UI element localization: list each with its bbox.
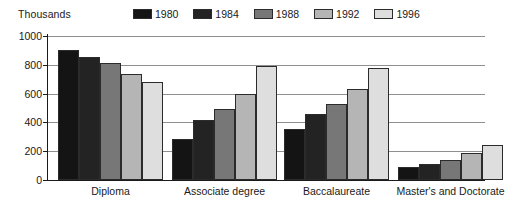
bar: [193, 120, 214, 180]
bar: [461, 153, 482, 180]
legend-label-1980: 1980: [155, 9, 178, 20]
y-tick-label-600: 600: [24, 88, 42, 99]
legend-item-1992: 1992: [314, 9, 359, 20]
bar-groups: [48, 36, 485, 180]
legend-label-1984: 1984: [215, 9, 238, 20]
y-tick-label-1000: 1000: [19, 31, 42, 42]
category-label-0: Diploma: [91, 186, 130, 197]
bar: [326, 104, 347, 180]
chart-legend: 19801984198819921996: [133, 9, 420, 20]
legend-item-1988: 1988: [254, 9, 299, 20]
legend-item-1996: 1996: [374, 9, 419, 20]
bar: [58, 50, 79, 180]
bar-group-associate-degree: [172, 36, 277, 180]
y-axis-unit-label: Thousands: [18, 8, 71, 20]
x-axis-line: [47, 180, 485, 181]
legend-swatch-1980: [133, 9, 152, 19]
bar: [142, 82, 163, 180]
category-label-3: Master's and Doctorate: [396, 186, 504, 197]
bar: [100, 63, 121, 180]
legend-swatch-1996: [374, 9, 393, 19]
bar-group-diploma: [58, 36, 163, 180]
bar: [440, 160, 461, 180]
legend-label-1996: 1996: [396, 9, 419, 20]
y-tick-label-0: 0: [36, 175, 42, 186]
y-tick-label-800: 800: [24, 60, 42, 71]
bar: [305, 114, 326, 180]
bar: [368, 68, 389, 180]
bar: [235, 94, 256, 180]
category-label-1: Associate degree: [184, 186, 265, 197]
bar: [79, 57, 100, 180]
legend-item-1984: 1984: [193, 9, 238, 20]
legend-swatch-1984: [193, 9, 212, 19]
bar: [256, 66, 277, 180]
y-tick-label-200: 200: [24, 146, 42, 157]
bar: [419, 164, 440, 180]
bar: [172, 139, 193, 180]
bar: [214, 109, 235, 180]
bar-group-master-s-and-doctorate: [398, 36, 503, 180]
bar-chart: Thousands 19801984198819921996 020040060…: [0, 0, 507, 210]
plot-area: 02004006008001000: [47, 36, 485, 181]
bar: [121, 74, 142, 180]
legend-swatch-1988: [254, 9, 273, 19]
bar: [347, 89, 368, 180]
legend-label-1992: 1992: [336, 9, 359, 20]
legend-swatch-1992: [314, 9, 333, 19]
y-axis-line: [47, 34, 48, 181]
category-label-2: Baccalaureate: [303, 186, 370, 197]
legend-label-1988: 1988: [276, 9, 299, 20]
y-tick-label-400: 400: [24, 117, 42, 128]
bar: [398, 167, 419, 180]
legend-item-1980: 1980: [133, 9, 178, 20]
bar-group-baccalaureate: [284, 36, 389, 180]
bar: [284, 129, 305, 180]
bar: [482, 145, 503, 180]
plot-inner: 02004006008001000: [47, 36, 485, 181]
